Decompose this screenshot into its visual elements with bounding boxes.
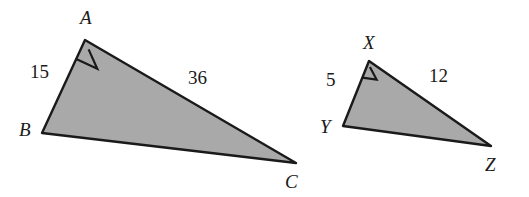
vertex-label-y: Y xyxy=(320,117,331,136)
side-label-ab: 15 xyxy=(30,62,49,81)
vertex-label-x: X xyxy=(363,33,375,52)
vertex-label-b: B xyxy=(19,120,31,139)
side-label-xz: 12 xyxy=(429,66,448,85)
side-label-ac: 36 xyxy=(188,68,207,87)
triangles-canvas xyxy=(0,0,529,197)
triangle-xyz-shape xyxy=(343,61,491,146)
vertex-label-a: A xyxy=(80,8,92,27)
geometry-figure: A B C 15 36 X Y Z 5 12 xyxy=(0,0,529,197)
side-label-xy: 5 xyxy=(326,70,336,89)
vertex-label-c: C xyxy=(285,172,298,191)
triangle-abc-shape xyxy=(42,40,296,163)
vertex-label-z: Z xyxy=(485,155,496,174)
